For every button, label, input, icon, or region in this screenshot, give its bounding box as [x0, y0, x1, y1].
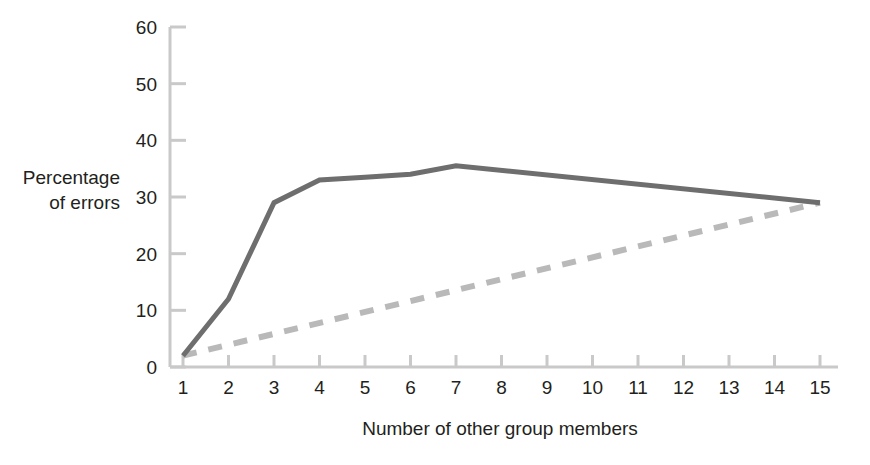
x-tick-label: 3: [269, 377, 280, 398]
y-tick-label: 20: [136, 244, 157, 265]
x-axis-label: Number of other group members: [170, 418, 830, 440]
x-tick-label: 12: [673, 377, 694, 398]
x-tick-label: 2: [223, 377, 234, 398]
y-tick-label: 30: [136, 187, 157, 208]
x-tick-label: 7: [451, 377, 462, 398]
x-tick-label: 8: [496, 377, 507, 398]
y-tick-label-group: 0102030405060: [136, 17, 157, 378]
x-tick-label: 4: [314, 377, 325, 398]
x-tick-label: 13: [718, 377, 739, 398]
x-tick-label: 1: [178, 377, 189, 398]
x-tick-label: 10: [582, 377, 603, 398]
y-tick-label: 40: [136, 130, 157, 151]
x-tick-label: 6: [405, 377, 416, 398]
data-line-solid: [183, 166, 820, 356]
y-tick-mark-group: [170, 27, 186, 367]
x-tick-label-group: 123456789101112131415: [178, 377, 831, 398]
chart-figure: Percentage of errors 0102030405060 12345…: [0, 0, 870, 465]
x-tick-label: 15: [809, 377, 830, 398]
x-tick-label: 14: [764, 377, 786, 398]
y-tick-label: 60: [136, 17, 157, 38]
line-chart-plot: 0102030405060 123456789101112131415: [0, 0, 870, 465]
x-tick-label: 9: [542, 377, 553, 398]
x-tick-mark-group: [183, 355, 820, 367]
y-tick-label: 10: [136, 300, 157, 321]
x-tick-label: 11: [628, 377, 648, 398]
x-tick-label: 5: [360, 377, 371, 398]
y-tick-label: 0: [146, 357, 157, 378]
y-tick-label: 50: [136, 74, 157, 95]
data-line-dashed: [183, 203, 820, 356]
